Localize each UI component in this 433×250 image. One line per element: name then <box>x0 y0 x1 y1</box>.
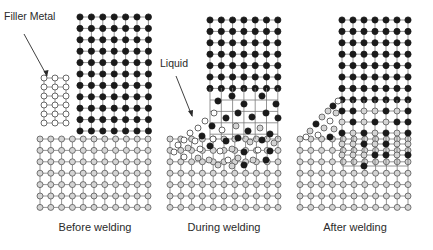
gray-atom <box>113 147 119 153</box>
gray-atom <box>69 159 75 165</box>
white-atom <box>41 120 47 126</box>
black-atom <box>100 94 106 100</box>
black-atom <box>218 40 224 46</box>
gray-atom <box>113 170 119 176</box>
filler-metal-label: Filler Metal <box>4 10 55 22</box>
gray-atom <box>102 170 108 176</box>
gray-atom <box>340 170 346 176</box>
black-atom <box>88 71 94 77</box>
black-atom <box>241 162 247 168</box>
gray-atom <box>185 145 191 151</box>
black-atom <box>218 51 224 57</box>
welding-diagram: Filler Metal Liquid Before welding Durin… <box>0 0 433 250</box>
gray-atom <box>307 128 313 134</box>
black-atom <box>267 148 273 154</box>
white-atom <box>315 132 321 138</box>
gray-atom <box>308 182 314 188</box>
gray-atom <box>257 125 263 131</box>
gray-atom <box>362 204 368 210</box>
black-atom <box>383 63 389 69</box>
black-atom <box>88 37 94 43</box>
black-atom <box>218 17 224 23</box>
liquid-pointer-arrow <box>176 76 192 116</box>
gray-atom <box>113 193 119 199</box>
gray-atom <box>37 136 43 142</box>
white-atom <box>181 154 187 160</box>
black-atom <box>230 63 236 69</box>
gray-atom <box>199 182 205 188</box>
gray-atom <box>253 182 259 188</box>
white-atom <box>225 157 231 163</box>
gray-atom <box>178 193 184 199</box>
gray-atom <box>210 170 216 176</box>
gray-atom <box>373 182 379 188</box>
black-atom <box>123 128 129 134</box>
black-atom <box>77 82 83 88</box>
black-atom <box>394 28 400 34</box>
black-atom <box>235 135 241 141</box>
gray-atom <box>339 141 345 147</box>
white-atom <box>52 75 58 81</box>
gray-atom <box>199 170 205 176</box>
white-atom <box>52 102 58 108</box>
white-atom <box>41 111 47 117</box>
white-atom <box>192 138 198 144</box>
black-atom <box>134 60 140 66</box>
gray-atom <box>361 108 367 114</box>
gray-atom <box>145 136 151 142</box>
gray-atom <box>405 193 411 199</box>
black-atom <box>361 74 367 80</box>
atomic-lattice-figure <box>0 0 433 250</box>
gray-atom <box>394 130 400 136</box>
gray-atom <box>199 193 205 199</box>
gray-atom <box>383 204 389 210</box>
gray-atom <box>189 193 195 199</box>
black-atom <box>100 25 106 31</box>
black-atom <box>207 28 213 34</box>
black-atom <box>361 63 367 69</box>
black-atom <box>313 121 319 127</box>
gray-atom <box>394 204 400 210</box>
black-atom <box>259 137 265 143</box>
black-atom <box>100 71 106 77</box>
black-atom <box>111 37 117 43</box>
black-atom <box>263 28 269 34</box>
gray-atom <box>167 170 173 176</box>
black-atom <box>88 48 94 54</box>
gray-atom <box>91 159 97 165</box>
gray-atom <box>134 147 140 153</box>
black-atom <box>405 74 411 80</box>
white-atom <box>41 93 47 99</box>
gray-atom <box>145 193 151 199</box>
gray-atom <box>264 182 270 188</box>
gray-atom <box>80 204 86 210</box>
gray-atom <box>123 136 129 142</box>
gray-atom <box>59 159 65 165</box>
black-atom <box>263 17 269 23</box>
gray-atom <box>102 147 108 153</box>
gray-atom <box>372 141 378 147</box>
black-atom <box>145 14 151 20</box>
black-atom <box>215 98 221 104</box>
black-atom <box>145 48 151 54</box>
black-atom <box>88 128 94 134</box>
gray-atom <box>189 170 195 176</box>
black-atom <box>100 105 106 111</box>
gray-atom <box>145 204 151 210</box>
white-atom <box>63 120 69 126</box>
black-atom <box>100 37 106 43</box>
black-atom <box>350 17 356 23</box>
gray-atom <box>243 182 249 188</box>
black-atom <box>383 40 389 46</box>
gray-atom <box>37 193 43 199</box>
gray-atom <box>264 193 270 199</box>
gray-atom <box>340 204 346 210</box>
gray-atom <box>134 159 140 165</box>
gray-atom <box>134 204 140 210</box>
gray-atom <box>199 204 205 210</box>
black-atom <box>339 28 345 34</box>
black-atom <box>218 63 224 69</box>
black-atom <box>339 17 345 23</box>
white-atom <box>210 136 216 142</box>
gray-atom <box>319 193 325 199</box>
